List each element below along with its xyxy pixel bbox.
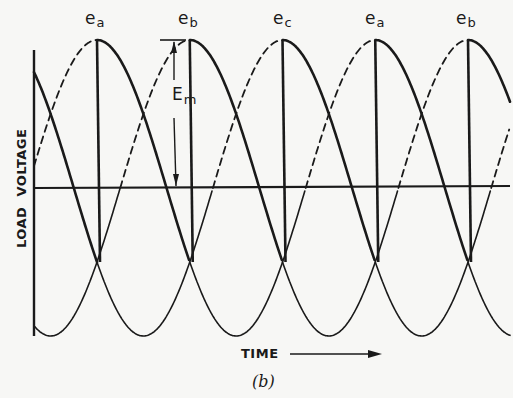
load-voltage-segment — [34, 72, 97, 262]
peak-label-ea: ea — [365, 10, 384, 29]
peak-label-eb: eb — [456, 10, 476, 29]
waveform-plot — [0, 0, 513, 398]
load-voltage-segment — [468, 40, 510, 102]
peak-label-ea: ea — [85, 10, 104, 29]
peak-label-symbol: e — [85, 8, 95, 28]
time-arrowhead-icon — [368, 350, 382, 358]
phase-curve-dashed — [120, 40, 189, 188]
peak-label-ec: ec — [273, 10, 292, 29]
load-voltage-segment — [283, 40, 375, 260]
commutation-line — [468, 40, 471, 262]
phase-curve-lower — [375, 191, 490, 336]
x-axis-label: TIME — [241, 346, 279, 361]
amplitude-subscript: m — [184, 92, 197, 107]
peak-label-subscript: a — [376, 15, 384, 30]
figure-canvas: eaebeceaeb Em LOAD VOLTAGE TIME (b) — [0, 0, 513, 398]
peak-label-symbol: e — [365, 8, 375, 28]
peak-label-subscript: b — [467, 15, 475, 30]
peak-label-symbol: e — [178, 8, 188, 28]
phase-curve-dashed — [34, 40, 97, 166]
phase-curve-dashed — [306, 40, 375, 188]
phase-curve-lower — [283, 191, 398, 336]
phase-curve-dashed — [398, 40, 467, 188]
phase-curve-lower — [190, 191, 305, 336]
phase-curve-lower — [97, 191, 212, 336]
commutation-line — [97, 40, 100, 262]
figure-caption: (b) — [252, 372, 275, 391]
peak-label-subscript: c — [284, 15, 291, 30]
load-voltage-segment — [190, 40, 282, 260]
peak-label-symbol: e — [456, 8, 466, 28]
amplitude-label: Em — [172, 84, 196, 107]
y-axis-label: LOAD VOLTAGE — [14, 129, 29, 248]
peak-label-subscript: a — [96, 15, 104, 30]
commutation-line — [283, 40, 286, 262]
commutation-line — [375, 40, 378, 262]
peak-label-eb: eb — [178, 10, 198, 29]
load-voltage-segment — [375, 40, 467, 260]
peak-label-symbol: e — [273, 8, 283, 28]
phase-curve-dashed — [491, 130, 509, 189]
peak-label-subscript: b — [189, 15, 197, 30]
zero-axis-line — [34, 186, 510, 188]
phase-curve-lower — [468, 262, 510, 335]
commutation-line — [190, 40, 193, 262]
phase-curve-dashed — [213, 40, 282, 188]
phase-curve-lower — [34, 189, 120, 336]
em-arrowhead-up-icon — [171, 41, 177, 53]
em-arrowhead-down-icon — [173, 174, 179, 186]
amplitude-symbol: E — [172, 84, 183, 104]
